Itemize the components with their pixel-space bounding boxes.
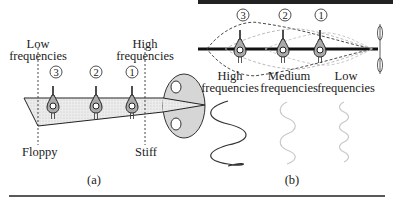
wave-label-medium-2: frequencies — [260, 81, 318, 95]
marker-1: 1 — [126, 66, 138, 78]
svg-text:1: 1 — [129, 67, 134, 78]
svg-text:1: 1 — [318, 10, 323, 21]
caption-a: (a) — [87, 173, 101, 187]
hair-cell-1b-icon — [314, 30, 326, 63]
marker-b-2: 2 — [279, 9, 291, 21]
marker-2: 2 — [90, 66, 102, 78]
hair-cell-2b-icon — [277, 30, 289, 63]
low-frequencies-label-line2: frequencies — [9, 49, 67, 63]
marker-b-1: 1 — [315, 9, 327, 21]
marker-b-3: 3 — [237, 9, 249, 21]
svg-text:3: 3 — [53, 67, 58, 78]
high-frequencies-label-line2: frequencies — [116, 49, 174, 63]
panel-a: 3 2 1 Low frequencies High frequencies F… — [9, 37, 205, 187]
panel-b: 3 2 1 High frequencies Medium frequencie… — [198, 0, 393, 187]
caption-b: (b) — [285, 173, 300, 187]
medium-freq-waveform — [280, 102, 295, 164]
wave-label-low-2: frequencies — [317, 81, 375, 95]
marker-3: 3 — [50, 66, 62, 78]
svg-text:2: 2 — [282, 10, 287, 21]
low-freq-waveform — [340, 102, 349, 162]
floppy-label: Floppy — [22, 145, 58, 159]
cochlea-frequency-diagram: 3 2 1 Low frequencies High frequencies F… — [0, 0, 393, 201]
svg-text:2: 2 — [93, 67, 98, 78]
wave-label-high-2: frequencies — [201, 81, 259, 95]
svg-text:3: 3 — [240, 10, 245, 21]
stiff-label: Stiff — [135, 145, 158, 159]
high-freq-waveform — [211, 101, 246, 166]
